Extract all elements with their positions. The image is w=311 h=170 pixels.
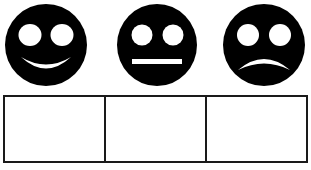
answer-box-1-value (5, 97, 104, 161)
answer-boxes-row (3, 95, 308, 163)
answer-box-3-value (207, 97, 306, 161)
face-circle (223, 4, 305, 86)
happy-face-icon[interactable] (5, 4, 87, 86)
answer-box-3[interactable] (207, 97, 306, 161)
answer-box-2-value (106, 97, 205, 161)
sad-face-icon[interactable] (223, 4, 305, 86)
right-eye (163, 25, 184, 46)
straight-mouth (132, 59, 182, 64)
left-eye (237, 24, 259, 46)
answer-box-1[interactable] (5, 97, 106, 161)
worksheet-canvas (0, 0, 311, 170)
left-eye (132, 25, 153, 46)
face-circle (5, 4, 87, 86)
right-eye (269, 24, 291, 46)
face-circle (117, 4, 197, 86)
left-eye (19, 24, 42, 46)
answer-box-2[interactable] (106, 97, 207, 161)
emotion-faces-row (0, 0, 311, 92)
neutral-face-icon[interactable] (116, 4, 198, 86)
right-eye (51, 24, 74, 46)
